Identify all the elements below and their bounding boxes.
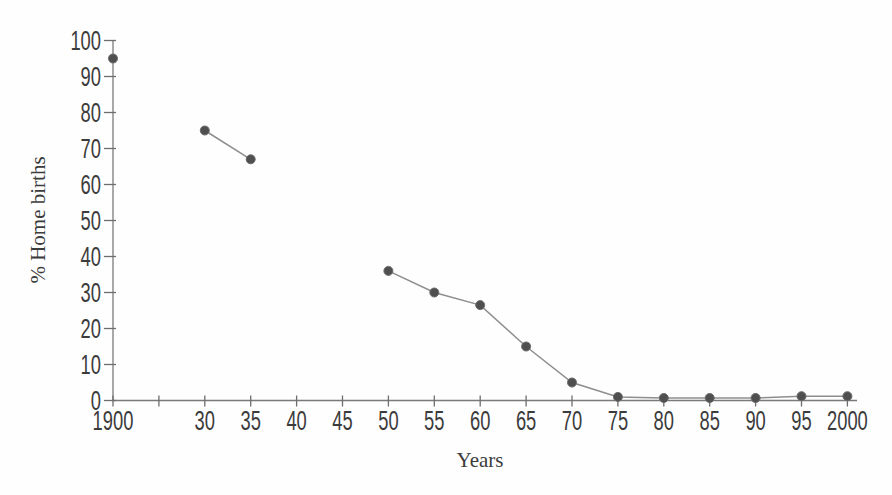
- x-tick-label: 95: [791, 406, 811, 436]
- y-tick-label: 70: [81, 134, 101, 164]
- data-point-1900: [109, 54, 118, 63]
- data-point-1995: [797, 392, 806, 401]
- x-tick-label: 90: [745, 406, 765, 436]
- chart-plot-area: 0102030405060708090100190030354045505560…: [0, 0, 892, 495]
- x-tick-label: 40: [286, 406, 306, 436]
- x-tick-label: 80: [654, 406, 674, 436]
- data-point-1975: [613, 392, 622, 401]
- y-tick-label: 50: [81, 206, 101, 236]
- data-point-1970: [568, 378, 577, 387]
- x-tick-label: 65: [516, 406, 536, 436]
- data-point-1985: [705, 393, 714, 402]
- x-tick-label: 45: [332, 406, 352, 436]
- home-births-line-chart-figure: 0102030405060708090100190030354045505560…: [0, 0, 892, 495]
- x-tick-label: 55: [424, 406, 444, 436]
- x-tick-label: 70: [562, 406, 582, 436]
- x-tick-label: 85: [700, 406, 720, 436]
- x-tick-label: 1900: [93, 406, 134, 436]
- x-tick-label: 75: [608, 406, 628, 436]
- y-tick-label: 10: [81, 350, 101, 380]
- x-tick-label: 50: [378, 406, 398, 436]
- data-point-1960: [476, 301, 485, 310]
- y-tick-label: 60: [81, 170, 101, 200]
- data-point-2000: [843, 392, 852, 401]
- x-tick-label: 30: [195, 406, 215, 436]
- y-tick-label: 20: [81, 314, 101, 344]
- data-point-1950: [384, 266, 393, 275]
- y-tick-label: 80: [81, 98, 101, 128]
- data-point-1935: [246, 155, 255, 164]
- y-tick-label: 40: [81, 242, 101, 272]
- data-point-1980: [659, 393, 668, 402]
- x-tick-label: 60: [470, 406, 490, 436]
- series-line-segment: [205, 131, 251, 160]
- x-axis-title: Years: [457, 448, 504, 473]
- series-line-segment: [388, 271, 847, 398]
- x-tick-label: 2000: [827, 406, 868, 436]
- y-tick-label: 100: [70, 26, 101, 56]
- y-axis-title: % Home births: [26, 156, 51, 283]
- data-point-1990: [751, 393, 760, 402]
- y-tick-label: 30: [81, 278, 101, 308]
- data-point-1965: [522, 342, 531, 351]
- data-point-1930: [200, 126, 209, 135]
- x-tick-label: 35: [241, 406, 261, 436]
- data-point-1955: [430, 288, 439, 297]
- y-tick-label: 90: [81, 62, 101, 92]
